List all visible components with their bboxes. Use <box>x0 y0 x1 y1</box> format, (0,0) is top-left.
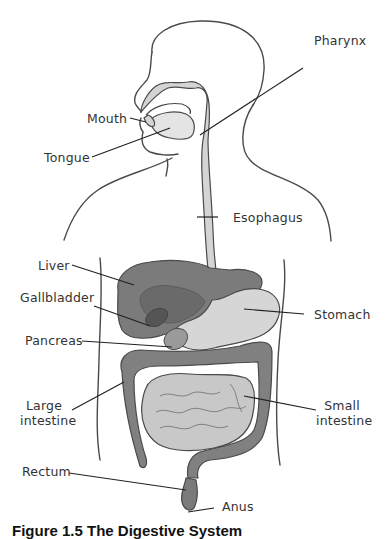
label-pancreas: Pancreas <box>25 333 83 348</box>
label-pharynx: Pharynx <box>314 33 366 48</box>
leader-pharynx <box>200 68 303 135</box>
label-stomach: Stomach <box>314 307 371 322</box>
label-tongue: Tongue <box>44 150 90 165</box>
small-intestine <box>142 374 255 451</box>
leader-pancreas <box>82 341 172 347</box>
label-small-intestine-line2: intestine <box>316 413 368 428</box>
leader-rectum <box>69 473 186 490</box>
label-anus: Anus <box>222 499 254 514</box>
label-mouth: Mouth <box>87 111 127 126</box>
label-small-intestine: Small intestine <box>316 398 368 428</box>
figure-caption: Figure 1.5 The Digestive System <box>12 522 242 539</box>
label-small-intestine-line1: Small <box>316 398 368 413</box>
label-large-intestine-line2: intestine <box>20 413 68 428</box>
leader-tongue <box>92 128 170 157</box>
label-liver: Liver <box>38 258 70 273</box>
label-large-intestine: Large intestine <box>20 398 68 428</box>
label-esophagus: Esophagus <box>233 210 303 225</box>
rectum <box>181 478 197 510</box>
label-rectum: Rectum <box>22 464 71 479</box>
label-gallbladder: Gallbladder <box>20 290 94 305</box>
label-large-intestine-line1: Large <box>20 398 68 413</box>
